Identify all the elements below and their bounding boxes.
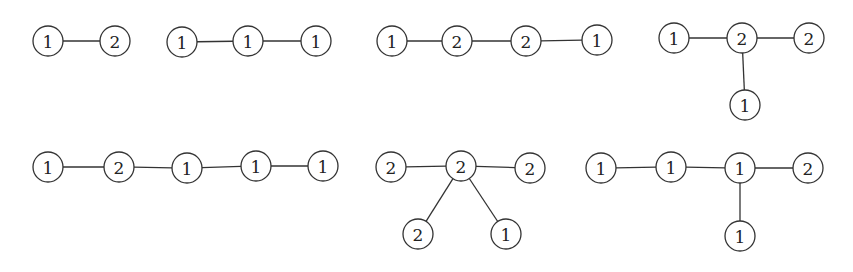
node: 1 [491, 219, 521, 249]
node-label: 1 [592, 31, 603, 51]
graph-g5: 12111 [33, 151, 338, 183]
node-label: 1 [735, 227, 746, 247]
node: 2 [793, 153, 823, 183]
node-label: 1 [666, 158, 677, 178]
edge [406, 166, 446, 167]
graph-g3: 1221 [377, 25, 612, 56]
edge [541, 40, 582, 41]
node: 1 [586, 153, 616, 183]
node-label: 2 [114, 158, 125, 178]
node-label: 2 [803, 159, 814, 179]
node: 1 [172, 153, 202, 183]
node: 1 [233, 26, 263, 56]
edge [202, 166, 241, 167]
node-label: 1 [318, 157, 329, 177]
node: 1 [659, 23, 689, 53]
node-label: 1 [43, 32, 54, 52]
node: 1 [241, 151, 271, 181]
node: 1 [582, 25, 612, 55]
node: 2 [100, 26, 130, 56]
node: 2 [794, 23, 824, 53]
node: 1 [730, 90, 760, 120]
node: 1 [725, 221, 755, 251]
node: 1 [301, 26, 331, 56]
edge [426, 179, 453, 222]
graph-g6: 22221 [376, 151, 545, 249]
node: 2 [376, 152, 406, 182]
node: 2 [727, 23, 757, 53]
node-label: 1 [669, 29, 680, 49]
node-label: 1 [596, 159, 607, 179]
node-label: 1 [177, 33, 188, 53]
edge [616, 167, 656, 168]
edge [134, 167, 172, 168]
graph-g7: 11121 [586, 152, 823, 251]
node-label: 1 [740, 96, 751, 116]
node-label: 2 [386, 158, 397, 178]
node: 2 [442, 26, 472, 56]
node-label: 1 [43, 158, 54, 178]
node: 1 [725, 153, 755, 183]
node: 2 [511, 26, 541, 56]
node-label: 2 [110, 32, 121, 52]
node-label: 2 [521, 32, 532, 52]
node-label: 1 [182, 159, 193, 179]
graph-g2: 111 [167, 26, 331, 57]
node: 2 [446, 151, 476, 181]
node-label: 2 [525, 159, 536, 179]
node: 1 [167, 27, 197, 57]
graph-diagram-canvas: 1211112211221121112222111121 [0, 0, 853, 272]
node: 2 [104, 152, 134, 182]
edge [686, 167, 725, 168]
node: 1 [33, 152, 63, 182]
graph-g1: 12 [33, 26, 130, 56]
node-label: 2 [413, 225, 424, 245]
node-label: 2 [737, 29, 748, 49]
edge [476, 166, 515, 167]
node-label: 1 [311, 32, 322, 52]
node-label: 1 [501, 225, 512, 245]
node: 2 [515, 153, 545, 183]
node-label: 1 [243, 32, 254, 52]
node-label: 1 [251, 157, 262, 177]
node: 1 [656, 152, 686, 182]
node: 1 [308, 151, 338, 181]
node-label: 2 [804, 29, 815, 49]
graph-g4: 1221 [659, 23, 824, 120]
node: 2 [403, 219, 433, 249]
node-label: 2 [456, 157, 467, 177]
node-label: 1 [387, 32, 398, 52]
node-label: 2 [452, 32, 463, 52]
node: 1 [33, 26, 63, 56]
node: 1 [377, 26, 407, 56]
edge [197, 41, 233, 42]
edge [469, 179, 497, 222]
node-label: 1 [735, 159, 746, 179]
edge [743, 53, 745, 90]
